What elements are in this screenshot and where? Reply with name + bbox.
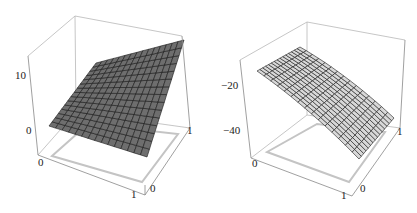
x-tick-label: 0: [38, 157, 44, 168]
surface-plot-right: −20 −40 0 1 0 1: [207, 0, 415, 213]
y-tick-label: 1: [187, 125, 193, 136]
z-tick-label: −20: [221, 80, 238, 91]
plot-canvas-right: [207, 0, 417, 213]
x-tick-label: 1: [131, 189, 137, 200]
y-tick-label: 1: [397, 126, 403, 137]
surface-plot-left: 10 0 0 1 0 1: [0, 0, 208, 213]
z-tick-label: 10: [15, 70, 26, 81]
z-tick-label: 0: [26, 125, 32, 136]
y-tick-label: 0: [150, 183, 156, 194]
x-tick-label: 1: [341, 190, 347, 201]
y-tick-label: 0: [360, 183, 366, 194]
plot-canvas-left: [0, 0, 208, 213]
x-tick-label: 0: [252, 158, 258, 169]
z-tick-label: −40: [223, 125, 240, 136]
